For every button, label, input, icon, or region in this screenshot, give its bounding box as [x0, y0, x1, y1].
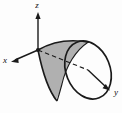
y-axis-label: y — [113, 87, 118, 97]
origin-point — [36, 48, 40, 52]
z-axis-label: z — [34, 0, 39, 10]
cone-diagram-canvas: z x y — [0, 0, 122, 113]
cone-diagram-figure: z x y — [0, 0, 122, 113]
x-axis-label: x — [2, 55, 7, 65]
